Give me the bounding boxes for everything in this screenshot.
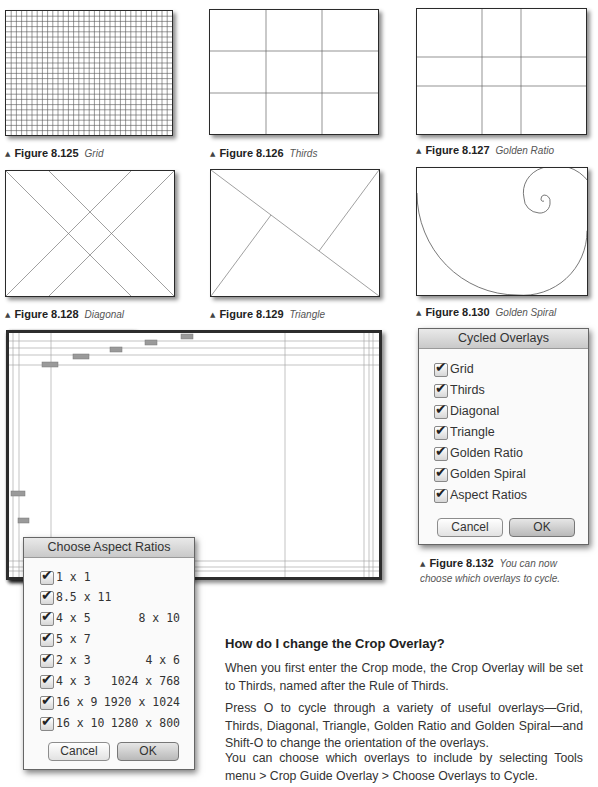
diagonal-overlay-figure [5,170,175,297]
aspect-ratio-option[interactable]: 8.5 x 11 [24,589,194,609]
overlay-option-golden-ratio[interactable]: Golden Ratio [419,445,588,465]
paragraph: You can choose which overlays to include… [225,750,583,785]
cancel-button[interactable]: Cancel [48,742,110,761]
checkbox-checked-icon[interactable] [40,591,54,605]
choose-aspect-ratios-dialog: Choose Aspect Ratios 1 x 1 8.5 x 11 4 x … [23,537,195,770]
aspect-ratio-option[interactable]: 1 x 1 [24,569,194,589]
ok-button[interactable]: OK [509,518,575,537]
checkbox-checked-icon[interactable] [434,363,448,377]
cancel-button[interactable]: Cancel [437,518,503,537]
aspect-ratio-option[interactable]: 4 x 5 8 x 10 [24,610,194,630]
caption-triangle-icon: ▲ [210,311,215,319]
overlay-option-triangle[interactable]: Triangle [419,424,588,444]
checkbox-checked-icon[interactable] [40,717,54,731]
overlay-option-thirds[interactable]: Thirds [419,382,588,402]
figure-caption: ▲Figure 8.127Golden Ratio [416,144,554,156]
checkbox-checked-icon[interactable] [40,654,54,668]
caption-triangle-icon: ▲ [416,147,421,155]
checkbox-checked-icon[interactable] [434,384,448,398]
golden-ratio-overlay-lines [417,9,586,134]
caption-triangle-icon: ▲ [416,309,421,317]
overlay-option-grid[interactable]: Grid [419,361,588,381]
figure-caption: ▲Figure 8.126Thirds [210,147,317,159]
checkbox-checked-icon[interactable] [40,675,54,689]
triangle-overlay-figure [210,169,380,297]
aspect-ratio-option[interactable]: 4 x 3 1024 x 768 [24,673,194,693]
thirds-overlay-lines [210,10,378,134]
caption-triangle-icon: ▲ [420,560,425,568]
grid-overlay-figure [5,10,173,136]
overlay-option-diagonal[interactable]: Diagonal [419,403,588,423]
figure-caption: ▲Figure 8.125Grid [5,147,104,159]
checkbox-checked-icon[interactable] [434,405,448,419]
aspect-ratio-option[interactable]: 16 x 10 1280 x 800 [24,715,194,735]
checkbox-checked-icon[interactable] [40,571,54,585]
cycled-overlays-dialog: Cycled Overlays Grid Thirds Diagonal Tri… [418,328,589,545]
figure-caption: ▲Figure 8.132You can now [420,557,557,569]
overlay-option-aspect-ratios[interactable]: Aspect Ratios [419,487,588,507]
checkbox-checked-icon[interactable] [434,489,448,503]
checkbox-checked-icon[interactable] [40,612,54,626]
paragraph: Press O to cycle through a variety of us… [225,700,583,753]
golden-spiral-overlay-figure [416,167,588,296]
section-heading: How do I change the Crop Overlay? [225,636,445,651]
thirds-overlay-figure [209,9,379,135]
caption-triangle-icon: ▲ [5,311,10,319]
triangle-overlay-lines [211,170,379,296]
aspect-ratio-option[interactable]: 5 x 7 [24,631,194,651]
dialog-title: Choose Aspect Ratios [24,538,194,558]
diagonal-overlay-lines [6,171,174,296]
checkbox-checked-icon[interactable] [40,633,54,647]
caption-triangle-icon: ▲ [5,150,10,158]
dialog-title: Cycled Overlays [419,329,588,349]
checkbox-checked-icon[interactable] [434,447,448,461]
aspect-ratio-option[interactable]: 2 x 3 4 x 6 [24,652,194,672]
checkbox-checked-icon[interactable] [434,468,448,482]
checkbox-checked-icon[interactable] [40,696,54,710]
golden-spiral-overlay-lines [417,168,587,295]
figure-caption: ▲Figure 8.130Golden Spiral [416,306,556,318]
overlay-option-golden-spiral[interactable]: Golden Spiral [419,466,588,486]
checkbox-checked-icon[interactable] [434,426,448,440]
aspect-ratio-option[interactable]: 16 x 9 1920 x 1024 [24,694,194,714]
caption-triangle-icon: ▲ [210,150,215,158]
grid-overlay-lines [6,11,172,135]
ok-button[interactable]: OK [117,742,179,761]
golden-ratio-overlay-figure [416,8,587,135]
dialog-body: Grid Thirds Diagonal Triangle Golden Rat… [419,349,588,544]
paragraph: When you first enter the Crop mode, the … [225,660,583,695]
dialog-body: 1 x 1 8.5 x 11 4 x 5 8 x 10 5 x 7 2 x 3 … [24,558,194,769]
figure-caption: ▲Figure 8.129Triangle [210,308,325,320]
figure-caption-continued: choose which overlays to cycle. [420,573,560,584]
figure-caption: ▲Figure 8.128Diagonal [5,308,124,320]
